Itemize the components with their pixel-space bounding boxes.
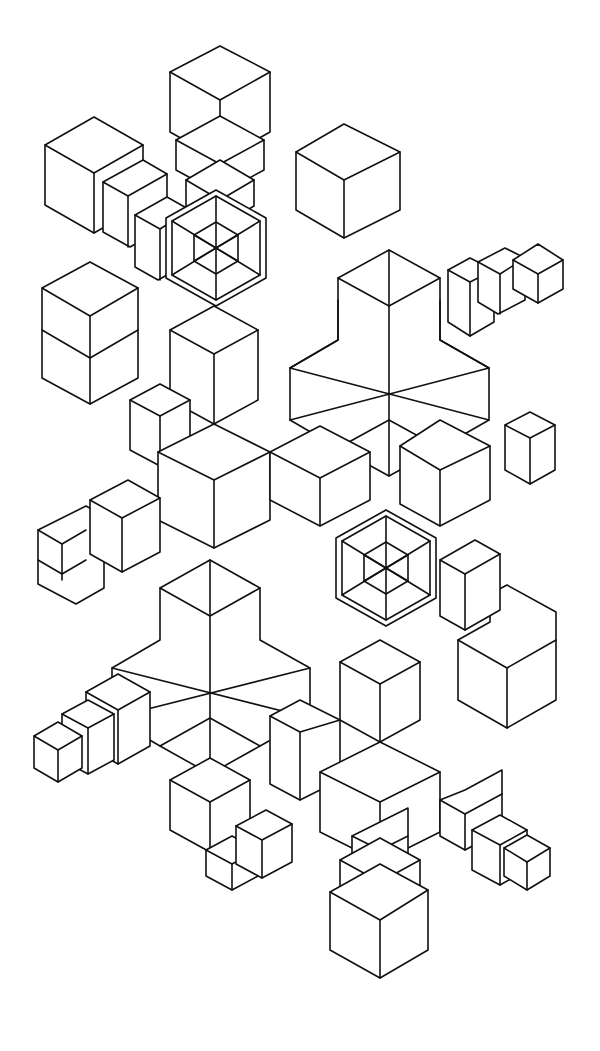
lower-hex-core <box>336 510 436 626</box>
isometric-cube-drawing <box>0 0 600 1051</box>
left-small-cube <box>38 480 160 604</box>
upper-right-steps <box>448 244 563 336</box>
right-large-cube <box>440 540 556 728</box>
lower-right-steps <box>440 770 550 890</box>
artwork-canvas: Isometric stepped-cube geometric pattern <box>0 0 600 1051</box>
lower-left-steps <box>34 674 150 782</box>
